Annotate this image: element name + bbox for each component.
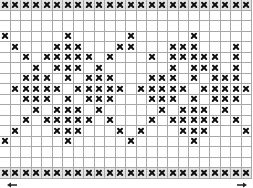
grid-cell <box>242 63 253 74</box>
grid-cell <box>84 21 95 32</box>
grid-cell <box>147 137 158 148</box>
grid-cell <box>210 11 221 22</box>
stitch-x-icon <box>221 105 232 116</box>
grid-cell <box>0 158 11 169</box>
grid-cell <box>105 11 116 22</box>
grid-cell <box>126 84 137 95</box>
grid-cell <box>74 74 85 85</box>
stitch-x-icon <box>42 95 53 106</box>
stitch-x-icon <box>116 126 127 137</box>
stitch-x-icon <box>221 168 232 179</box>
stitch-x-icon <box>231 84 242 95</box>
grid-cell <box>231 11 242 22</box>
stitch-x-icon <box>242 126 253 137</box>
stitch-x-icon <box>21 84 32 95</box>
grid-cell <box>32 32 43 43</box>
grid-cell <box>74 32 85 43</box>
grid-cell <box>21 63 32 74</box>
grid-cell <box>74 147 85 158</box>
stitch-x-icon <box>231 42 242 53</box>
grid-cell <box>168 158 179 169</box>
stitch-x-icon <box>189 74 200 85</box>
stitch-x-icon <box>200 53 211 64</box>
grid-cell <box>105 147 116 158</box>
grid-cell <box>179 137 190 148</box>
stitch-x-icon <box>210 84 221 95</box>
grid-cell <box>21 126 32 137</box>
stitch-x-icon <box>168 116 179 127</box>
grid-cell <box>147 21 158 32</box>
grid-cell <box>126 95 137 106</box>
grid-cell <box>11 21 22 32</box>
stitch-x-icon <box>179 0 190 11</box>
stitch-x-icon <box>116 84 127 95</box>
stitch-x-icon <box>105 116 116 127</box>
grid-cell <box>0 74 11 85</box>
stitch-x-icon <box>179 53 190 64</box>
arrow-right-icon[interactable] <box>236 182 248 188</box>
grid-cell <box>116 53 127 64</box>
grid-cell <box>116 95 127 106</box>
grid-cell <box>53 95 64 106</box>
grid-cell <box>221 11 232 22</box>
stitch-x-icon <box>137 126 148 137</box>
grid-cell <box>210 21 221 32</box>
grid-cell <box>242 116 253 127</box>
grid-cell <box>95 158 106 169</box>
stitch-x-icon <box>147 53 158 64</box>
stitch-x-icon <box>189 126 200 137</box>
grid-cell <box>116 74 127 85</box>
grid-cell <box>242 32 253 43</box>
grid-cell <box>105 126 116 137</box>
stitch-x-icon <box>200 116 211 127</box>
grid-cell <box>231 32 242 43</box>
stitch-x-icon <box>11 84 22 95</box>
grid-cell <box>11 116 22 127</box>
stitch-x-icon <box>147 74 158 85</box>
stitch-x-icon <box>168 95 179 106</box>
grid-cell <box>137 53 148 64</box>
grid-cell <box>210 158 221 169</box>
stitch-x-icon <box>74 53 85 64</box>
grid-cell <box>0 105 11 116</box>
stitch-x-icon <box>74 116 85 127</box>
stitch-x-icon <box>84 74 95 85</box>
grid-cell <box>105 105 116 116</box>
grid-cell <box>242 74 253 85</box>
grid-cell <box>221 63 232 74</box>
grid-cell <box>179 147 190 158</box>
stitch-x-icon <box>126 42 137 53</box>
stitch-x-icon <box>200 105 211 116</box>
grid-cell <box>200 32 211 43</box>
stitch-x-icon <box>168 74 179 85</box>
stitch-x-icon <box>42 0 53 11</box>
stitch-x-icon <box>53 53 64 64</box>
grid-cell <box>189 11 200 22</box>
stitch-x-icon <box>95 95 106 106</box>
stitch-x-icon <box>179 168 190 179</box>
grid-cell <box>21 137 32 148</box>
stitch-x-icon <box>95 74 106 85</box>
stitch-x-icon <box>42 53 53 64</box>
stitch-x-icon <box>0 0 11 11</box>
grid-cell <box>105 32 116 43</box>
grid-cell <box>11 32 22 43</box>
grid-cell <box>242 53 253 64</box>
grid-cell <box>21 147 32 158</box>
grid-cell <box>221 116 232 127</box>
grid-cell <box>53 11 64 22</box>
grid-cell <box>221 158 232 169</box>
grid-cell <box>0 63 11 74</box>
grid-cell <box>137 105 148 116</box>
stitch-x-icon <box>105 95 116 106</box>
stitch-x-icon <box>116 42 127 53</box>
stitch-x-icon <box>42 116 53 127</box>
stitch-x-icon <box>116 0 127 11</box>
grid-cell <box>84 42 95 53</box>
grid-cell <box>168 105 179 116</box>
grid-cell <box>126 105 137 116</box>
arrow-left-icon[interactable] <box>6 182 18 188</box>
grid-cell <box>126 21 137 32</box>
stitch-x-icon <box>74 63 85 74</box>
grid-cell <box>84 147 95 158</box>
